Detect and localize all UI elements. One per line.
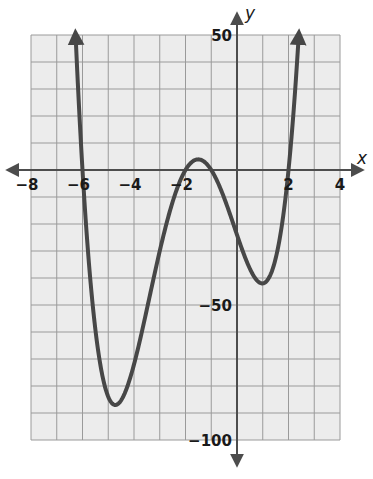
x-tick-label: 4: [335, 176, 345, 194]
x-tick-label: −2: [170, 176, 193, 194]
x-tick-label: −6: [67, 176, 90, 194]
polynomial-graph: −8−6−4−224 50−50−100 x y: [0, 0, 373, 479]
x-tick-label: −8: [15, 176, 38, 194]
y-tick-label: −100: [188, 432, 232, 450]
x-axis-label: x: [356, 148, 368, 168]
x-tick-label: 2: [283, 176, 293, 194]
y-tick-label: 50: [211, 27, 232, 45]
y-tick-label: −50: [199, 297, 232, 315]
y-axis-label: y: [244, 3, 256, 23]
x-tick-label: −4: [118, 176, 141, 194]
